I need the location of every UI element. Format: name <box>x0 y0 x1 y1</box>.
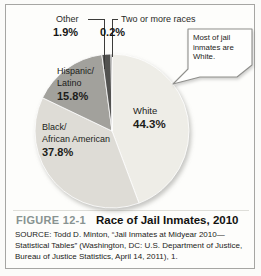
two-or-more-races-slice-value: 0.2% <box>100 26 125 38</box>
figure-caption: FIGURE 12-1 Race of Jail Inmates, 2010 <box>16 214 239 226</box>
other-slice-label: Other <box>56 14 79 24</box>
figure-12-1: Other 1.9% Two or more races 0.2% Hispan… <box>0 0 261 276</box>
slice-name: Latino <box>57 78 94 90</box>
figure-number: FIGURE 12-1 <box>16 214 86 226</box>
slice-value: 15.8% <box>57 90 94 103</box>
callout-text: Most of jail inmates are White. <box>193 33 248 62</box>
white-slice-label: White 44.3% <box>133 105 166 131</box>
other-slice-value: 1.9% <box>53 26 78 38</box>
black-african-american-slice-label: Black/ African American 37.8% <box>42 122 110 159</box>
slice-value: 37.8% <box>42 146 110 159</box>
slice-name: African American <box>42 134 110 146</box>
slice-name: White <box>133 105 166 117</box>
figure-title: Race of Jail Inmates, 2010 <box>96 214 239 226</box>
slice-value: 44.3% <box>133 118 166 131</box>
source-citation: SOURCE: Todd D. Minton, “Jail Inmates at… <box>15 230 250 262</box>
slice-name: Black/ <box>42 122 110 134</box>
slice-name: Hispanic/ <box>57 66 94 78</box>
hispanic-latino-slice-label: Hispanic/ Latino 15.8% <box>57 66 94 103</box>
leader-line-two-or-more-races <box>112 19 118 57</box>
